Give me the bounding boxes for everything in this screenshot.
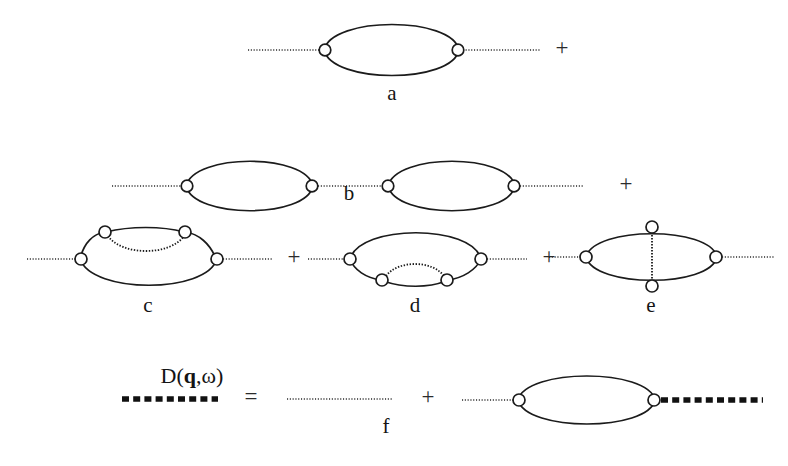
diagram-e: e	[549, 221, 775, 317]
vertex-top-e	[646, 221, 658, 233]
vertex-right-d	[475, 253, 487, 265]
operator-plus-c-d: +	[288, 244, 301, 269]
diagram-canvas: a + b +	[0, 0, 788, 466]
loop1-upper-arc-b	[186, 161, 313, 186]
diagram-f: D(q,ω) = + f	[122, 363, 763, 438]
label-c: c	[143, 293, 152, 317]
loop1-lower-arc-b	[186, 186, 313, 211]
diagram-a: a +	[248, 25, 568, 106]
operator-plus-f: +	[422, 384, 435, 409]
vertex-1-b	[181, 180, 193, 192]
vertex-left-f	[513, 394, 525, 406]
vertex-right-f	[648, 394, 660, 406]
loop-upper-mid-arc-c	[106, 228, 184, 233]
operator-plus-row-a: +	[556, 35, 569, 60]
label-b: b	[344, 181, 355, 205]
diagram-d: d +	[308, 233, 555, 317]
vertex-bottom-e	[646, 280, 658, 292]
loop-lower-arc-f	[518, 400, 655, 424]
loop-upper-arc-a	[324, 25, 459, 51]
vertex-3-b	[382, 180, 394, 192]
vertex-left-e	[580, 251, 592, 263]
loop2-upper-arc-b	[388, 161, 515, 186]
diagram-c: c +	[27, 226, 300, 317]
label-d: d	[410, 293, 421, 317]
momentum-symbol: q	[184, 363, 197, 388]
vertex-4-b	[508, 180, 520, 192]
loop2-lower-arc-b	[388, 186, 515, 211]
loop-lower-arc-a	[324, 50, 459, 76]
vertex-top-right-c	[179, 226, 191, 238]
loop-upper-arc-d	[350, 233, 481, 259]
label-e: e	[646, 293, 655, 317]
operator-plus-row-b: +	[620, 171, 633, 196]
vertex-2-b	[306, 180, 318, 192]
vertex-top-left-c	[99, 226, 111, 238]
diagram-b: b +	[112, 161, 632, 211]
vertex-bottom-right-d	[441, 274, 453, 286]
interaction-arc-c	[108, 236, 184, 251]
label-a: a	[387, 81, 397, 105]
operator-equals-f: =	[245, 384, 258, 409]
label-f: f	[383, 414, 390, 438]
vertex-left-a	[319, 44, 331, 56]
vertex-right-c	[211, 253, 223, 265]
vertex-right-a	[452, 44, 464, 56]
loop-lower-mid-arc-d	[383, 281, 446, 286]
loop-lower-arc-c	[80, 259, 217, 285]
vertex-bottom-left-d	[376, 274, 388, 286]
vertex-left-d	[344, 253, 356, 265]
interaction-arc-d	[386, 264, 444, 276]
vertex-right-e	[710, 251, 722, 263]
feynman-diagram-figure: a + b +	[0, 0, 788, 466]
loop-upper-arc-f	[518, 376, 655, 400]
vertex-left-c	[75, 253, 87, 265]
propagator-label-D: D(q,ω)	[161, 363, 224, 388]
